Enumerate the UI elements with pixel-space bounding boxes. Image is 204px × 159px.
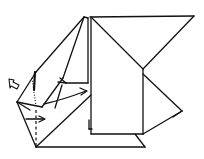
origami-diagram: [0, 0, 204, 159]
push-arrow-icon: [9, 79, 19, 89]
right-square-body: [89, 16, 194, 147]
flap-edge-thick: [34, 72, 35, 90]
